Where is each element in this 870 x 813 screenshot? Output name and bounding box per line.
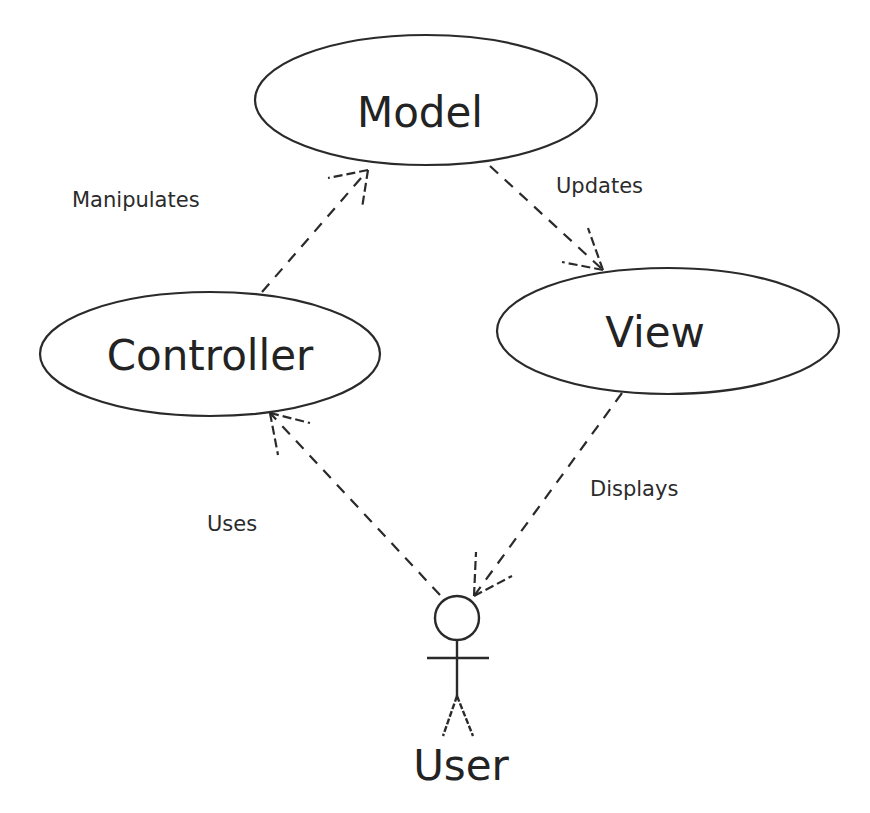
node-model: Model xyxy=(255,35,597,165)
actor-icon xyxy=(427,596,489,736)
mvc-diagram: Manipulates Updates Displays Uses Model … xyxy=(0,0,870,813)
edge-label-uses: Uses xyxy=(207,512,257,536)
arrowhead-icon xyxy=(328,170,368,208)
edge-label-updates: Updates xyxy=(556,174,643,198)
controller-label: Controller xyxy=(107,331,314,380)
edge-label-manipulates: Manipulates xyxy=(72,188,200,212)
edge-manipulates xyxy=(262,170,368,292)
edge-label-displays: Displays xyxy=(590,477,678,501)
edge-uses-line xyxy=(270,413,440,595)
user-label: User xyxy=(413,741,509,790)
edge-uses xyxy=(270,413,440,595)
node-user: User xyxy=(413,596,509,790)
view-label: View xyxy=(605,308,705,357)
edge-manipulates-line xyxy=(262,170,368,292)
node-view: View xyxy=(497,268,839,394)
model-label: Model xyxy=(357,88,483,137)
node-controller: Controller xyxy=(40,292,380,416)
